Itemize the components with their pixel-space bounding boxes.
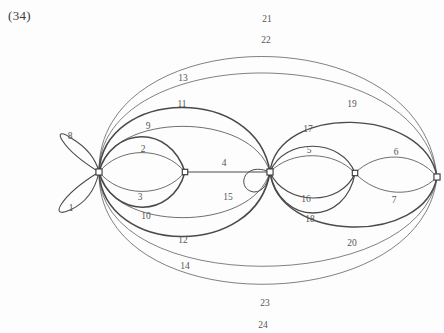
edge-label-3: 3 [138, 192, 143, 202]
graph-vertex-v5 [434, 174, 440, 180]
graph-edge-3 [99, 172, 185, 192]
edge-label-2: 2 [141, 144, 146, 154]
graph-edge-21 [99, 56, 437, 177]
figure-canvas: (34) 12345678910111213141516171819202122… [0, 0, 444, 333]
graph-edge-17 [270, 146, 355, 173]
edge-label-9: 9 [146, 121, 151, 131]
edge-label-4: 4 [222, 158, 227, 168]
edge-label-19: 19 [347, 99, 357, 109]
graph-edge-24 [99, 172, 437, 284]
graph-edge-5 [270, 156, 355, 173]
graph-vertex-v4 [352, 170, 357, 175]
graph-edge-8 [60, 134, 99, 172]
graph-edge-11 [99, 126, 270, 172]
graph-edge-9 [99, 137, 185, 172]
edge-label-11: 11 [177, 99, 186, 109]
graph-edge-2 [99, 153, 185, 173]
graph-edge-1 [59, 172, 99, 212]
edge-label-8: 8 [68, 131, 73, 141]
edge-label-21: 21 [262, 14, 272, 24]
edge-label-6: 6 [394, 147, 399, 157]
edge-label-23: 23 [260, 298, 270, 308]
edge-label-16: 16 [301, 194, 311, 204]
edge-label-17: 17 [303, 124, 313, 134]
edge-label-1: 1 [69, 203, 74, 213]
edge-label-20: 20 [347, 238, 357, 248]
graph-vertex-v2 [182, 169, 187, 174]
graph-edge-18 [270, 172, 355, 213]
edge-label-13: 13 [178, 73, 188, 83]
edge-label-7: 7 [392, 195, 397, 205]
edge-label-15: 15 [223, 192, 233, 202]
edge-label-14: 14 [180, 261, 190, 271]
edge-label-22: 22 [261, 35, 271, 45]
graph-edge-6 [355, 157, 437, 177]
edge-label-18: 18 [305, 214, 315, 224]
edge-label-24: 24 [258, 320, 268, 330]
graph-edge-16 [270, 172, 355, 198]
graph-vertex-v3 [267, 169, 273, 175]
graph-vertex-v1 [96, 169, 102, 175]
edge-label-5: 5 [307, 145, 312, 155]
edge-layer [59, 56, 437, 284]
graph-edge-7 [355, 173, 437, 192]
edge-label-12: 12 [178, 235, 188, 245]
edge-label-10: 10 [141, 211, 151, 221]
